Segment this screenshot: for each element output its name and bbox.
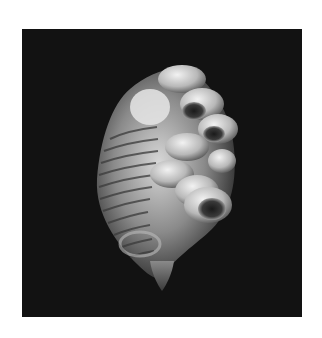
shell-illustration	[22, 29, 302, 317]
shell-highlight	[130, 89, 170, 125]
shell-photograph: Black and white photograph of a spiral s…	[22, 29, 302, 317]
